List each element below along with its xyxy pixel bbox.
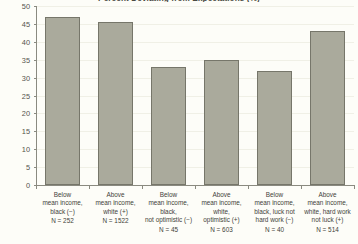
x-axis-tick-mark bbox=[195, 185, 196, 189]
x-axis-tick-mark bbox=[142, 185, 143, 189]
x-axis-label-line: mean income, bbox=[143, 199, 194, 207]
x-axis-label-line: black (−) bbox=[37, 208, 88, 216]
x-axis-label-line: white, hard work bbox=[302, 208, 353, 216]
x-axis-label-line: Above bbox=[196, 191, 247, 199]
bar bbox=[98, 22, 133, 185]
x-axis-tick-mark bbox=[301, 185, 302, 189]
x-axis-label-line: Below bbox=[37, 191, 88, 199]
x-axis-label-line: mean income, bbox=[196, 199, 247, 207]
x-axis-label-sample-size: N = 40 bbox=[249, 226, 300, 234]
x-axis-label-line: Above bbox=[90, 191, 141, 199]
y-axis-tick-label: 40 bbox=[0, 38, 30, 47]
x-axis-label-line: mean income, bbox=[90, 199, 141, 207]
x-axis-label-line: mean income, bbox=[249, 199, 300, 207]
y-axis-tick-label: 35 bbox=[0, 56, 30, 65]
x-axis-label-line: optimistic (+) bbox=[196, 216, 247, 224]
x-axis-label-sample-size: N = 603 bbox=[196, 226, 247, 234]
x-axis-label-line: white (+) bbox=[90, 208, 141, 216]
x-axis-category-label: Belowmean income,black,not optimistic (−… bbox=[142, 191, 195, 244]
x-axis-category-label: Abovemean income,white (+)N = 1522 bbox=[89, 191, 142, 244]
x-axis-label-line: Above bbox=[302, 191, 353, 199]
x-axis-category-label: Belowmean income,black (−)N = 252 bbox=[36, 191, 89, 244]
x-axis-label-line: hard work (−) bbox=[249, 216, 300, 224]
x-axis-label-line: white, bbox=[196, 208, 247, 216]
bar bbox=[151, 67, 186, 185]
y-axis-tick-label: 20 bbox=[0, 109, 30, 118]
y-axis-tick-label: 50 bbox=[0, 2, 30, 11]
x-axis-label-line: mean income, bbox=[302, 199, 353, 207]
x-axis-tick-mark bbox=[248, 185, 249, 189]
x-axis-tick-mark bbox=[89, 185, 90, 189]
x-axis-label-line: mean income, bbox=[37, 199, 88, 207]
x-axis-label-line: not optimistic (−) bbox=[143, 216, 194, 224]
y-axis-tick-label: 10 bbox=[0, 145, 30, 154]
x-axis-labels: Belowmean income,black (−)N = 252Aboveme… bbox=[36, 191, 354, 244]
y-axis-tick-label: 25 bbox=[0, 92, 30, 101]
x-axis-category-label: Abovemean income,white,optimistic (+)N =… bbox=[195, 191, 248, 244]
bar bbox=[204, 60, 239, 185]
y-axis-tick-label: 15 bbox=[0, 127, 30, 136]
x-axis-label-sample-size: N = 1522 bbox=[90, 217, 141, 225]
x-axis-label-line: Below bbox=[143, 191, 194, 199]
y-axis-tick-label: 30 bbox=[0, 74, 30, 83]
chart-title: Percent Deviating from Expectations (%) bbox=[0, 0, 358, 2]
bar bbox=[257, 71, 292, 185]
x-axis-label-line: black, luck not bbox=[249, 208, 300, 216]
x-axis-label-line: black, bbox=[143, 208, 194, 216]
bars-container bbox=[36, 6, 354, 185]
x-axis-label-sample-size: N = 514 bbox=[302, 226, 353, 234]
bar-chart: Percent Deviating from Expectations (%) … bbox=[0, 0, 358, 244]
y-axis-tick-label: 5 bbox=[0, 163, 30, 172]
x-axis-category-label: Belowmean income,black, luck nothard wor… bbox=[248, 191, 301, 244]
x-axis-label-sample-size: N = 45 bbox=[143, 226, 194, 234]
y-axis-tick-label: 45 bbox=[0, 20, 30, 29]
y-axis-tick-label: 0 bbox=[0, 181, 30, 190]
x-axis-label-sample-size: N = 252 bbox=[37, 217, 88, 225]
bar bbox=[310, 31, 345, 185]
x-axis-label-line: Below bbox=[249, 191, 300, 199]
x-axis-tick-mark bbox=[36, 185, 37, 189]
x-axis-category-label: Abovemean income,white, hard worknot luc… bbox=[301, 191, 354, 244]
bar bbox=[45, 17, 80, 185]
x-axis-label-line: not luck (+) bbox=[302, 216, 353, 224]
x-axis-tick-mark bbox=[354, 185, 355, 189]
y-axis: 05101520253035404550 bbox=[0, 0, 34, 191]
